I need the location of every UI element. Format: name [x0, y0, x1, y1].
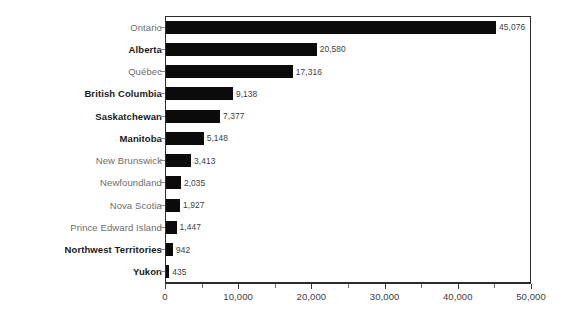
bar-row: Northwest Territories942 — [0, 239, 571, 261]
bar — [166, 243, 173, 256]
bar — [166, 132, 204, 145]
y-axis-tick — [160, 116, 165, 117]
x-axis-tick-minor — [421, 284, 422, 288]
bar-value-label: 45,076 — [499, 22, 525, 32]
bar — [166, 265, 169, 278]
bar-row: British Columbia9,138 — [0, 83, 571, 105]
category-label: British Columbia — [0, 88, 162, 99]
category-label: Nova Scotia — [0, 200, 162, 211]
x-axis-tick-minor — [494, 284, 495, 288]
category-label: Ontario — [0, 22, 162, 33]
y-axis-tick — [160, 249, 165, 250]
bar-chart: Ontario45,076Alberta20,580Québec17,316Br… — [0, 0, 571, 321]
y-axis-tick — [160, 205, 165, 206]
bar-row: Nova Scotia1,927 — [0, 194, 571, 216]
bar — [166, 110, 220, 123]
y-axis-tick — [160, 49, 165, 50]
bar-value-label: 1,927 — [183, 200, 204, 210]
x-axis-tick-major — [311, 284, 312, 289]
y-axis-tick — [160, 182, 165, 183]
bar — [166, 21, 496, 34]
bar-row: Prince Edward Island1,447 — [0, 216, 571, 238]
x-axis-tick-major — [238, 284, 239, 289]
x-axis-tick-minor — [275, 284, 276, 288]
bar-row: New Brunswick3,413 — [0, 150, 571, 172]
bar-rows: Ontario45,076Alberta20,580Québec17,316Br… — [0, 16, 571, 283]
bar-row: Newfoundland2,035 — [0, 172, 571, 194]
x-axis-tick-label: 0 — [162, 291, 167, 302]
bar-row: Saskatchewan7,377 — [0, 105, 571, 127]
bar — [166, 65, 293, 78]
category-label: Yukon — [0, 266, 162, 277]
x-axis-tick-major — [385, 284, 386, 289]
bar — [166, 87, 233, 100]
bar-value-label: 1,447 — [180, 222, 201, 232]
x-axis-tick-minor — [202, 284, 203, 288]
bar-value-label: 9,138 — [236, 89, 257, 99]
y-axis-tick — [160, 160, 165, 161]
category-label: Prince Edward Island — [0, 222, 162, 233]
x-axis-tick-label: 30,000 — [370, 291, 400, 302]
bar-value-label: 942 — [176, 245, 190, 255]
category-label: Newfoundland — [0, 177, 162, 188]
category-label: Manitoba — [0, 133, 162, 144]
bar-value-label: 3,413 — [194, 156, 215, 166]
bar — [166, 221, 177, 234]
bar-row: Québec17,316 — [0, 61, 571, 83]
y-axis-tick — [160, 227, 165, 228]
x-axis-tick-label: 50,000 — [516, 291, 546, 302]
bar-value-label: 5,148 — [207, 133, 228, 143]
x-axis-tick-minor — [348, 284, 349, 288]
category-label: Northwest Territories — [0, 244, 162, 255]
x-axis-tick-label: 20,000 — [297, 291, 327, 302]
bar-row: Alberta20,580 — [0, 38, 571, 60]
category-label: New Brunswick — [0, 155, 162, 166]
category-label: Saskatchewan — [0, 111, 162, 122]
bar-value-label: 20,580 — [320, 44, 346, 54]
bar-row: Yukon435 — [0, 261, 571, 283]
bar-value-label: 2,035 — [184, 178, 205, 188]
y-axis-tick — [160, 93, 165, 94]
x-axis-tick-major — [458, 284, 459, 289]
bar-value-label: 435 — [172, 267, 186, 277]
bar-value-label: 17,316 — [296, 67, 322, 77]
bar — [166, 43, 317, 56]
bar — [166, 154, 191, 167]
x-axis-tick-label: 10,000 — [223, 291, 253, 302]
x-axis-tick-major — [165, 284, 166, 289]
x-axis-tick-label: 40,000 — [443, 291, 473, 302]
y-axis-tick — [160, 271, 165, 272]
bar-row: Manitoba5,148 — [0, 127, 571, 149]
bar — [166, 176, 181, 189]
category-label: Alberta — [0, 44, 162, 55]
y-axis-tick — [160, 138, 165, 139]
bar-value-label: 7,377 — [223, 111, 244, 121]
y-axis-tick — [160, 27, 165, 28]
bar-row: Ontario45,076 — [0, 16, 571, 38]
y-axis-tick — [160, 71, 165, 72]
bar — [166, 199, 180, 212]
category-label: Québec — [0, 66, 162, 77]
x-axis-tick-major — [531, 284, 532, 289]
